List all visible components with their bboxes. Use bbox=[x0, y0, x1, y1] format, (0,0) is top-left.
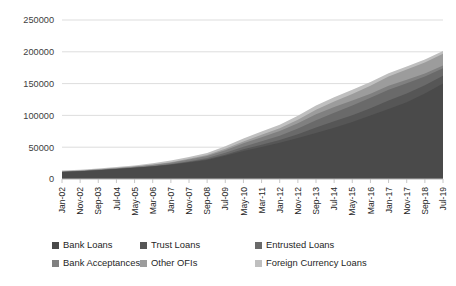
legend-label-foreign-currency-loans: Foreign Currency Loans bbox=[266, 258, 367, 267]
legend-item-trust-loans[interactable]: Trust Loans bbox=[140, 240, 255, 249]
svg-text:Mar-11: Mar-11 bbox=[257, 187, 267, 214]
legend-row-1: Bank Loans Trust Loans Entrusted Loans bbox=[0, 236, 456, 254]
stacked-area-chart: 050000100000150000200000250000 Jan-02Nov… bbox=[0, 0, 456, 286]
legend-swatch-entrusted-loans bbox=[255, 242, 262, 249]
legend-item-other-ofis[interactable]: Other OFIs bbox=[140, 258, 255, 267]
svg-text:Nov-17: Nov-17 bbox=[402, 187, 412, 215]
svg-text:Jan-02: Jan-02 bbox=[57, 187, 67, 213]
plot-area: 050000100000150000200000250000 Jan-02Nov… bbox=[0, 0, 456, 232]
svg-text:May-10: May-10 bbox=[239, 187, 249, 216]
svg-text:Mar-06: Mar-06 bbox=[148, 187, 158, 214]
svg-text:Mar-16: Mar-16 bbox=[366, 187, 376, 214]
svg-text:Nov-12: Nov-12 bbox=[293, 187, 303, 215]
svg-text:Nov-02: Nov-02 bbox=[75, 187, 85, 215]
svg-text:May-15: May-15 bbox=[347, 187, 357, 216]
svg-text:Sep-08: Sep-08 bbox=[202, 187, 212, 215]
svg-text:Jan-17: Jan-17 bbox=[384, 187, 394, 213]
legend-item-bank-acceptances[interactable]: Bank Acceptances bbox=[0, 258, 140, 267]
legend-swatch-foreign-currency-loans bbox=[255, 260, 262, 267]
y-axis-tick-labels: 050000100000150000200000250000 bbox=[23, 15, 54, 184]
svg-text:Sep-13: Sep-13 bbox=[311, 187, 321, 215]
legend-swatch-other-ofis bbox=[140, 260, 147, 267]
svg-text:0: 0 bbox=[49, 174, 54, 184]
svg-text:Jul-19: Jul-19 bbox=[438, 187, 448, 211]
legend-item-foreign-currency-loans[interactable]: Foreign Currency Loans bbox=[255, 258, 435, 267]
svg-text:Jul-04: Jul-04 bbox=[112, 187, 122, 211]
svg-text:Sep-03: Sep-03 bbox=[93, 187, 103, 215]
svg-text:Jan-07: Jan-07 bbox=[166, 187, 176, 213]
svg-text:200000: 200000 bbox=[23, 47, 54, 57]
svg-text:150000: 150000 bbox=[23, 79, 54, 89]
svg-text:100000: 100000 bbox=[23, 111, 54, 121]
chart-legend: Bank Loans Trust Loans Entrusted Loans B… bbox=[0, 232, 456, 286]
legend-label-entrusted-loans: Entrusted Loans bbox=[266, 240, 334, 249]
svg-text:50000: 50000 bbox=[28, 143, 54, 153]
legend-label-bank-acceptances: Bank Acceptances bbox=[63, 258, 140, 267]
legend-label-bank-loans: Bank Loans bbox=[63, 240, 113, 249]
svg-text:May-05: May-05 bbox=[130, 187, 140, 216]
legend-label-trust-loans: Trust Loans bbox=[151, 240, 200, 249]
legend-swatch-bank-loans bbox=[52, 242, 59, 249]
svg-text:Jan-12: Jan-12 bbox=[275, 187, 285, 213]
legend-swatch-bank-acceptances bbox=[52, 260, 59, 267]
x-axis-tick-marks bbox=[62, 179, 443, 183]
chart-canvas: 050000100000150000200000250000 Jan-02Nov… bbox=[0, 0, 456, 232]
legend-item-entrusted-loans[interactable]: Entrusted Loans bbox=[255, 240, 435, 249]
svg-text:Jul-14: Jul-14 bbox=[329, 187, 339, 211]
legend-item-bank-loans[interactable]: Bank Loans bbox=[0, 240, 140, 249]
svg-text:250000: 250000 bbox=[23, 15, 54, 25]
svg-text:Jul-09: Jul-09 bbox=[220, 187, 230, 211]
legend-swatch-trust-loans bbox=[140, 242, 147, 249]
x-axis-tick-labels: Jan-02Nov-02Sep-03Jul-04May-05Mar-06Jan-… bbox=[57, 187, 448, 216]
svg-text:Nov-07: Nov-07 bbox=[184, 187, 194, 215]
legend-label-other-ofis: Other OFIs bbox=[151, 258, 197, 267]
legend-row-2: Bank Acceptances Other OFIs Foreign Curr… bbox=[0, 254, 456, 272]
svg-text:Sep-18: Sep-18 bbox=[420, 187, 430, 215]
